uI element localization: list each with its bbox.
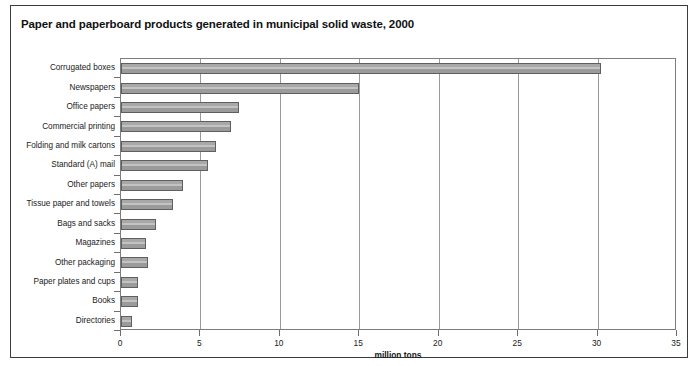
y-axis-label: Standard (A) mail [51,160,115,169]
x-axis-tick-20 [438,330,439,336]
y-axis-label: Directories [76,316,115,325]
x-axis-label-0: 0 [118,338,123,348]
x-axis-tick-10 [279,330,280,336]
y-axis-tick [114,272,120,273]
y-axis-label: Other papers [67,180,115,189]
x-axis-title: million tons [375,350,422,360]
y-axis-tick [114,213,120,214]
y-axis-label: Books [92,296,115,305]
y-axis-category-labels: Corrugated boxesNewspapersOffice papersC… [0,58,115,330]
x-axis-tick-5 [199,330,200,336]
y-axis-tick [114,291,120,292]
x-axis-label-20: 20 [433,338,442,348]
bar [121,296,138,307]
bar [121,180,183,191]
x-axis-label-35: 35 [671,338,680,348]
bar [121,199,173,210]
y-axis-label: Bags and sacks [57,219,115,228]
plot-area [120,58,676,330]
y-axis-label: Commercial printing [42,122,115,131]
y-axis-label: Newspapers [69,83,115,92]
bar-series [121,59,675,329]
y-axis-tick [114,77,120,78]
bar [121,83,359,94]
x-axis-label-10: 10 [274,338,283,348]
y-axis-tick [114,175,120,176]
y-axis-label: Office papers [66,102,115,111]
x-axis-tick-35 [676,330,677,336]
y-axis-label: Folding and milk cartons [26,141,115,150]
bar [121,238,146,249]
bar [121,141,216,152]
y-axis-tick [114,155,120,156]
y-axis-label: Corrugated boxes [50,63,115,72]
y-axis-label: Magazines [75,238,115,247]
y-axis-label: Paper plates and cups [34,277,115,286]
y-axis-tick [114,233,120,234]
bar [121,257,148,268]
bar [121,121,231,132]
y-axis-tick [114,116,120,117]
x-axis-label-25: 25 [512,338,521,348]
bar [121,102,239,113]
x-axis-tick-0 [120,330,121,336]
x-axis-label-15: 15 [354,338,363,348]
bar [121,316,132,327]
bar [121,277,138,288]
y-axis-label: Tissue paper and towels [27,199,115,208]
chart-title: Paper and paperboard products generated … [21,18,414,30]
bar [121,63,601,74]
x-axis-label-5: 5 [197,338,202,348]
y-axis-tick [114,252,120,253]
x-axis-label-30: 30 [592,338,601,348]
x-axis-tick-25 [517,330,518,336]
y-axis-tick [114,330,120,331]
x-axis-tick-30 [597,330,598,336]
y-axis-tick [114,136,120,137]
y-axis-tick [114,97,120,98]
y-axis-tick [114,311,120,312]
chart-figure: Paper and paperboard products generated … [0,0,696,366]
y-axis-tick [114,194,120,195]
bar [121,160,208,171]
y-axis-label: Other packaging [55,258,115,267]
x-axis-tick-15 [358,330,359,336]
bar [121,219,156,230]
